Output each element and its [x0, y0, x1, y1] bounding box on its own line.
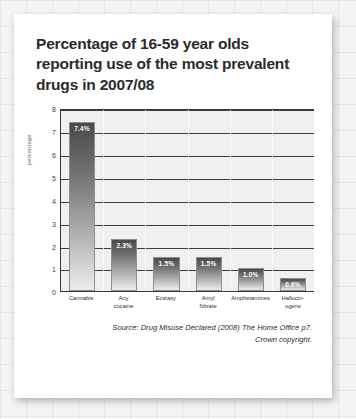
y-axis-label: percentage	[26, 135, 32, 166]
x-axis-ticks: Cannabis AnycocaineEcstasy AmylNitrateAm…	[60, 292, 314, 314]
y-tick-3: 3	[36, 220, 56, 227]
y-tick-7: 7	[36, 129, 56, 136]
bar-value-label-0: 7.4%	[70, 125, 94, 132]
source-line-1: Source: Drug Misuse Declared (2008) The …	[28, 322, 312, 333]
y-tick-1: 1	[36, 266, 56, 273]
bar-slot-4: 1.0%	[230, 110, 272, 291]
bar-value-label-4: 1.0%	[239, 271, 263, 278]
bar-value-label-3: 1.5%	[197, 260, 221, 267]
bar-slot-3: 1.5%	[188, 110, 230, 291]
y-tick-6: 6	[36, 152, 56, 159]
x-tick-cannabis: Cannabis	[60, 292, 102, 314]
bar-any-cocaine[interactable]: 2.3%	[111, 239, 137, 292]
bar-amyl-nitrate[interactable]: 1.5%	[196, 257, 222, 291]
bar-slot-1: 2.3%	[103, 110, 145, 291]
y-tick-5: 5	[36, 174, 56, 181]
plot-area: 7.4%2.3%1.5%1.5%1.0%0.6%	[60, 109, 314, 292]
bar-slot-5: 0.6%	[272, 110, 314, 291]
bar-value-label-1: 2.3%	[112, 242, 136, 249]
y-tick-0: 0	[36, 289, 56, 296]
source-line-2: Crown copyright.	[28, 334, 312, 345]
bar-slot-2: 1.5%	[145, 110, 187, 291]
bar-value-label-5: 0.6%	[281, 281, 305, 288]
chart-plot: percentage 876543210 7.4%2.3%1.5%1.5%1.0…	[28, 109, 318, 314]
bar-series: 7.4%2.3%1.5%1.5%1.0%0.6%	[61, 110, 314, 291]
x-tick-amyl-nitrate: AmylNitrate	[187, 292, 229, 314]
chart-title: Percentage of 16-59 year olds reporting …	[36, 34, 318, 95]
x-tick-any-cocaine: Anycocaine	[102, 292, 144, 314]
chart-card: Percentage of 16-59 year olds reporting …	[14, 14, 332, 398]
bar-ecstasy[interactable]: 1.5%	[153, 257, 179, 291]
bar-hallucin-ogens[interactable]: 0.6%	[280, 278, 306, 292]
bar-slot-0: 7.4%	[61, 110, 103, 291]
x-tick-hallucin-ogens: Hallucin-ogens	[272, 292, 314, 314]
bar-amphetamines[interactable]: 1.0%	[238, 268, 264, 291]
y-tick-8: 8	[36, 106, 56, 113]
y-tick-2: 2	[36, 243, 56, 250]
x-tick-amphetamines: Amphetamines	[229, 292, 271, 314]
x-tick-ecstasy: Ecstasy	[145, 292, 187, 314]
bar-cannabis[interactable]: 7.4%	[69, 122, 95, 291]
bar-value-label-2: 1.5%	[154, 260, 178, 267]
source-caption: Source: Drug Misuse Declared (2008) The …	[28, 322, 318, 345]
y-tick-4: 4	[36, 197, 56, 204]
